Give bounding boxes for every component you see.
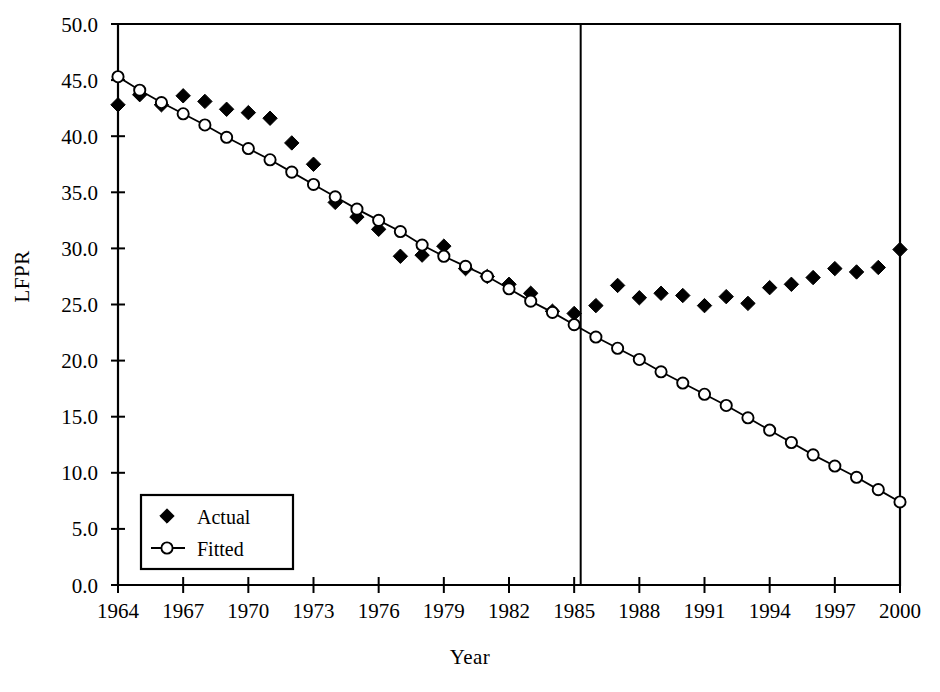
data-point-fitted: [786, 437, 797, 448]
data-point-actual: [632, 291, 646, 305]
x-tick-label: 1973: [293, 599, 335, 623]
chart-figure: LFPR Year 0.05.010.015.020.025.030.035.0…: [0, 0, 940, 692]
data-point-fitted: [742, 412, 753, 423]
data-point-actual: [285, 136, 299, 150]
data-point-fitted: [482, 271, 493, 282]
x-tick-label: 1976: [358, 599, 400, 623]
data-point-actual: [784, 277, 798, 291]
data-point-fitted: [134, 85, 145, 96]
y-tick-label: 30.0: [61, 237, 98, 261]
x-tick-label: 1988: [618, 599, 660, 623]
data-point-fitted: [764, 425, 775, 436]
data-point-fitted: [438, 251, 449, 262]
data-point-actual: [697, 298, 711, 312]
legend-marker-fitted: [161, 542, 172, 553]
data-point-fitted: [503, 283, 514, 294]
data-point-fitted: [417, 239, 428, 250]
y-tick-label: 0.0: [72, 574, 98, 598]
series-marker-group: [111, 71, 907, 507]
data-point-fitted: [655, 366, 666, 377]
x-tick-label: 1982: [488, 599, 530, 623]
data-point-actual: [219, 102, 233, 116]
data-point-actual: [676, 288, 690, 302]
y-tick-label: 45.0: [61, 69, 98, 93]
data-point-fitted: [808, 449, 819, 460]
data-point-fitted: [156, 97, 167, 108]
data-point-fitted: [547, 307, 558, 318]
data-point-actual: [806, 270, 820, 284]
data-point-fitted: [460, 261, 471, 272]
y-tick-label: 35.0: [61, 181, 98, 205]
y-tick-label: 40.0: [61, 125, 98, 149]
x-tick-label: 1979: [423, 599, 465, 623]
data-point-actual: [719, 289, 733, 303]
x-tick-label: 1991: [684, 599, 726, 623]
data-point-actual: [263, 111, 277, 125]
data-point-actual: [241, 105, 255, 119]
data-point-fitted: [112, 71, 123, 82]
plot-area: 0.05.010.015.020.025.030.035.040.045.050…: [0, 0, 940, 692]
x-tick-label: 1994: [749, 599, 792, 623]
data-point-fitted: [199, 119, 210, 130]
data-point-fitted: [677, 377, 688, 388]
x-tick-label: 1985: [553, 599, 595, 623]
data-point-actual: [589, 298, 603, 312]
data-point-fitted: [373, 215, 384, 226]
y-tick-label: 25.0: [61, 293, 98, 317]
data-point-actual: [762, 280, 776, 294]
data-point-fitted: [569, 319, 580, 330]
legend: ActualFitted: [141, 495, 293, 569]
y-tick-label-group: 0.05.010.015.020.025.030.035.040.045.050…: [61, 13, 98, 598]
data-point-fitted: [308, 179, 319, 190]
y-tick-label: 10.0: [61, 461, 98, 485]
data-point-actual: [893, 242, 907, 256]
x-axis-title: Year: [0, 645, 940, 670]
x-tick-label: 2000: [879, 599, 921, 623]
data-point-actual: [741, 296, 755, 310]
legend-label-actual: Actual: [197, 506, 251, 528]
data-point-actual: [871, 260, 885, 274]
data-point-actual: [393, 249, 407, 263]
data-point-fitted: [221, 132, 232, 143]
x-tick-label: 1970: [227, 599, 269, 623]
x-tick-label: 1967: [162, 599, 204, 623]
data-point-fitted: [829, 460, 840, 471]
data-point-actual: [828, 261, 842, 275]
data-point-fitted: [243, 143, 254, 154]
data-point-fitted: [851, 472, 862, 483]
y-tick-label: 15.0: [61, 405, 98, 429]
legend-label-fitted: Fitted: [197, 538, 244, 560]
data-point-actual: [306, 157, 320, 171]
data-point-fitted: [873, 484, 884, 495]
data-point-actual: [849, 265, 863, 279]
data-point-actual: [610, 278, 624, 292]
data-point-fitted: [590, 331, 601, 342]
data-point-fitted: [395, 226, 406, 237]
data-point-fitted: [264, 154, 275, 165]
data-point-actual: [198, 94, 212, 108]
data-point-actual: [111, 98, 125, 112]
y-tick-label: 50.0: [61, 13, 98, 37]
data-point-fitted: [525, 296, 536, 307]
data-point-fitted: [351, 204, 362, 215]
y-tick-label: 5.0: [72, 517, 98, 541]
y-axis-title: LFPR: [10, 263, 35, 303]
x-tick-label: 1997: [814, 599, 856, 623]
data-point-actual: [176, 89, 190, 103]
x-tick-label-group: 1964196719701973197619791982198519881991…: [97, 599, 921, 623]
data-point-fitted: [699, 389, 710, 400]
data-point-fitted: [634, 354, 645, 365]
x-tick-label: 1964: [97, 599, 140, 623]
data-point-fitted: [721, 400, 732, 411]
data-point-fitted: [286, 167, 297, 178]
data-point-fitted: [894, 496, 905, 507]
data-point-fitted: [612, 343, 623, 354]
data-point-fitted: [330, 191, 341, 202]
data-point-fitted: [178, 108, 189, 119]
y-tick-label: 20.0: [61, 349, 98, 373]
data-point-actual: [654, 286, 668, 300]
